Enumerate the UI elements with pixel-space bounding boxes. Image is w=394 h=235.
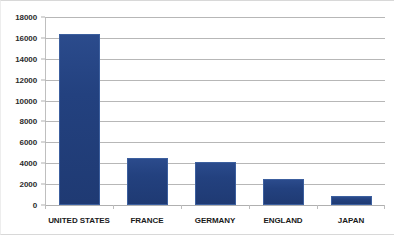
bar-germany[interactable] <box>195 162 236 205</box>
x-axis-category-label: JAPAN <box>338 216 364 225</box>
x-axis-category-label: GERMANY <box>195 216 236 225</box>
x-axis-labels: UNITED STATES FRANCE GERMANY ENGLAND JAP… <box>45 209 385 227</box>
y-axis-tick-label: 4000 <box>20 159 37 168</box>
y-axis-tick-label: 8000 <box>20 117 37 126</box>
x-axis-category-label: ENGLAND <box>263 216 302 225</box>
bar-england[interactable] <box>263 179 304 205</box>
y-axis-tick-label: 6000 <box>20 138 37 147</box>
bars-layer <box>45 17 385 205</box>
x-axis-category-label: UNITED STATES <box>48 216 110 225</box>
x-axis-label-slot: FRANCE <box>113 209 181 227</box>
bar-slot <box>317 17 385 205</box>
bar-slot <box>249 17 317 205</box>
bar-slot <box>113 17 181 205</box>
bar-slot <box>45 17 113 205</box>
y-axis-tick-label: 12000 <box>15 75 37 84</box>
y-axis-tick-label: 2000 <box>20 180 37 189</box>
y-axis-tick-label: 18000 <box>15 13 37 22</box>
x-axis-label-slot: UNITED STATES <box>45 209 113 227</box>
bar-france[interactable] <box>127 158 168 205</box>
x-axis-label-slot: ENGLAND <box>249 209 317 227</box>
y-axis-tick-label: 14000 <box>15 54 37 63</box>
bar-united-states[interactable] <box>59 34 100 205</box>
x-axis-category-label: FRANCE <box>130 216 163 225</box>
x-axis-label-slot: JAPAN <box>317 209 385 227</box>
bar-chart-figure: 18000 16000 14000 12000 10000 8000 6000 … <box>0 0 394 235</box>
bar-japan[interactable] <box>331 196 372 205</box>
y-axis-tick-label: 16000 <box>15 33 37 42</box>
y-axis-tick-label: 10000 <box>15 96 37 105</box>
x-axis-label-slot: GERMANY <box>181 209 249 227</box>
y-axis-labels: 18000 16000 14000 12000 10000 8000 6000 … <box>1 17 41 205</box>
plot-area <box>45 17 385 205</box>
bar-slot <box>181 17 249 205</box>
y-axis-tick-label: 0 <box>33 201 37 210</box>
